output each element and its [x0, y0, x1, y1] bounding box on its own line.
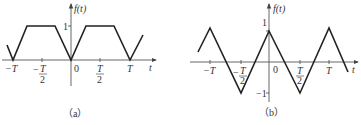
triangle-waveform [198, 28, 348, 93]
x-label-zero-a: 0 [74, 63, 79, 74]
x-label-half-num-a: T [97, 63, 104, 74]
y-label-neg1-b: −1 [256, 88, 267, 99]
x-label-T-b: T [326, 65, 333, 76]
x-label-half-den-b: 2 [297, 75, 302, 86]
ylabel-b: f(t) [273, 3, 286, 15]
xlabel-a: t [149, 62, 152, 73]
ylabel-a: f(t) [74, 3, 87, 15]
xlabel-b: t [352, 64, 355, 75]
x-label-neg-half-den-a: 2 [40, 74, 45, 85]
plot-a: f(t) 1 −T − T 2 0 T 2 T t （a） [2, 3, 156, 119]
x-label-T-a: T [127, 63, 134, 74]
x-label-neg-T-b: −T [203, 65, 217, 76]
y-label-1-a: 1 [63, 21, 68, 32]
x-label-half-den-a: 2 [97, 74, 102, 85]
x-label-minus-b: − [233, 67, 239, 78]
x-label-minus-a: − [33, 64, 39, 75]
x-label-neg-T-a: −T [5, 63, 19, 74]
y-label-1-b: 1 [262, 17, 267, 28]
plot-b: f(t) 1 −1 −T − T 2 0 T 2 T t （b） [190, 3, 358, 118]
x-label-neg-half-den-b: 2 [240, 75, 245, 86]
caption-a: （a） [63, 108, 87, 119]
x-label-zero-b: 0 [273, 64, 278, 75]
x-label-neg-half-num-a: T [40, 63, 47, 74]
caption-b: （b） [259, 107, 284, 118]
figure-canvas: f(t) 1 −T − T 2 0 T 2 T t （a） f(t) 1 −1 … [0, 0, 361, 125]
trapezoid-waveform [7, 26, 143, 60]
